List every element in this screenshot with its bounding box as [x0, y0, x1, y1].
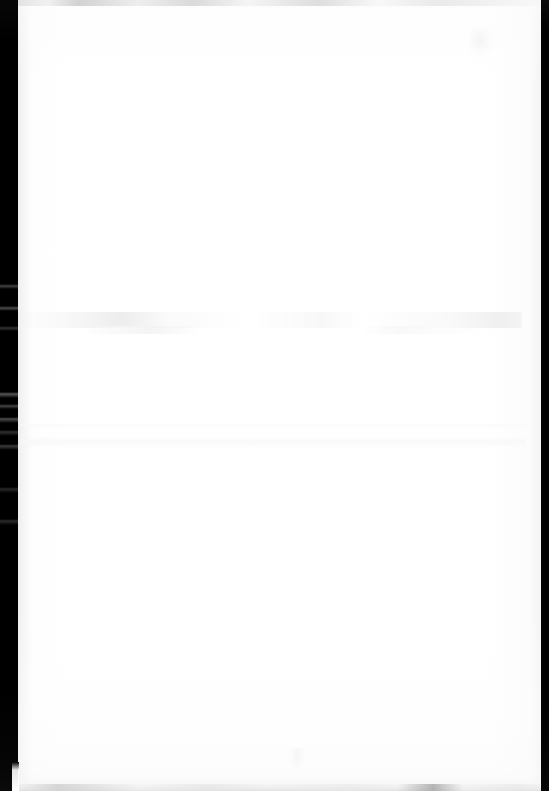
scanner-border-right [541, 0, 549, 791]
paper-surface [18, 0, 541, 791]
scanner-border-left [0, 0, 18, 791]
scanner-border-left-taper [12, 762, 19, 791]
scanned-document-page [0, 0, 549, 791]
